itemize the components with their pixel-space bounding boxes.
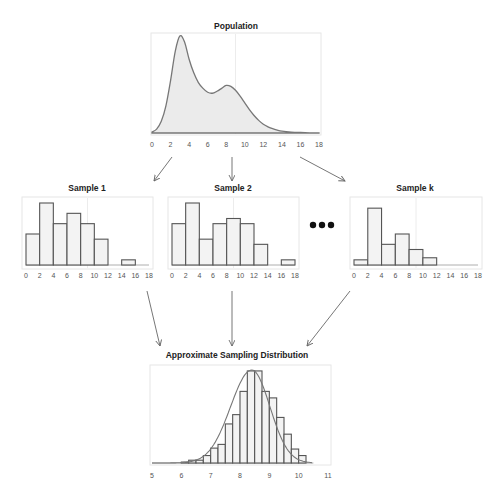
x-tick-label: 14 [447, 272, 455, 279]
x-tick-label: 10 [241, 141, 249, 148]
x-tick-label: 8 [407, 272, 411, 279]
x-tick-label: 4 [197, 272, 201, 279]
histogram-bar [240, 391, 247, 463]
ellipsis-dots-icon [310, 222, 334, 228]
population-panel: Population 024681012141618 [150, 21, 323, 148]
x-tick-label: 10 [90, 272, 98, 279]
histogram-bar [213, 224, 227, 265]
x-tick-label: 5 [150, 472, 154, 479]
x-tick-label: 18 [145, 272, 153, 279]
x-tick-label: 0 [24, 272, 28, 279]
x-tick-label: 16 [277, 272, 285, 279]
x-tick-label: 6 [179, 472, 183, 479]
histogram-bar [255, 371, 262, 463]
x-tick-label: 10 [236, 272, 244, 279]
histogram-bar [225, 424, 232, 463]
histogram-bar [368, 208, 382, 265]
x-tick-label: 6 [65, 272, 69, 279]
x-tick-label: 11 [324, 472, 331, 479]
x-tick-label: 18 [474, 272, 482, 279]
histogram-bar [203, 456, 210, 463]
histogram-bar [186, 203, 200, 265]
sampling-diagram: Population 024681012141618 Sample 1 0246… [0, 0, 502, 501]
x-tick-label: 10 [419, 272, 427, 279]
x-tick-label: 7 [209, 472, 213, 479]
x-tick-label: 12 [250, 272, 258, 279]
x-tick-label: 12 [259, 141, 267, 148]
histogram-bar [382, 244, 396, 265]
histogram-bar [409, 250, 423, 266]
x-tick-label: 2 [38, 272, 42, 279]
histogram-bar [227, 219, 241, 266]
x-tick-label: 0 [352, 272, 356, 279]
x-tick-label: 18 [291, 272, 299, 279]
histogram-bar [26, 234, 40, 265]
x-tick-label: 16 [131, 272, 139, 279]
histogram-bar [240, 224, 254, 265]
x-tick-label: 18 [315, 141, 323, 148]
histogram-bar [53, 224, 67, 265]
x-tick-label: 0 [170, 272, 174, 279]
sample-1-panel: Sample 1 024681012141618 [22, 183, 153, 279]
x-tick-label: 14 [278, 141, 286, 148]
histogram-bar [277, 417, 284, 463]
histogram-bar [247, 371, 254, 463]
sample-k-panel: Sample k 024681012141618 [350, 183, 482, 279]
arrow-to-sample-1 [154, 157, 172, 181]
x-tick-label: 12 [433, 272, 441, 279]
histogram-bar [354, 260, 368, 265]
x-tick-label: 2 [184, 272, 188, 279]
histogram-bar [172, 224, 186, 265]
x-tick-label: 16 [297, 141, 305, 148]
population-x-axis: 024681012141618 [150, 141, 323, 148]
sampling-distribution-title: Approximate Sampling Distribution [166, 350, 309, 360]
x-tick-label: 14 [118, 272, 126, 279]
sample-1-title: Sample 1 [68, 183, 106, 193]
x-tick-label: 8 [224, 141, 228, 148]
histogram-bar [423, 258, 437, 265]
arrow-to-sample-k [300, 157, 345, 181]
sample-2-panel: Sample 2 024681012141618 [168, 183, 299, 279]
histogram-bar [94, 239, 108, 265]
x-tick-label: 8 [225, 272, 229, 279]
sampling-distribution-panel: Approximate Sampling Distribution 567891… [150, 350, 332, 479]
x-tick-label: 2 [366, 272, 370, 279]
histogram-bar [233, 415, 240, 463]
x-tick-label: 0 [150, 141, 154, 148]
x-tick-label: 4 [187, 141, 191, 148]
histogram-bar [395, 234, 409, 265]
histogram-bar [122, 260, 136, 265]
histogram-bar [254, 244, 268, 265]
x-tick-label: 4 [51, 272, 55, 279]
arrow-from-sample-1 [147, 291, 160, 346]
histogram-bar [67, 213, 81, 265]
x-tick-label: 4 [380, 272, 384, 279]
x-tick-label: 6 [211, 272, 215, 279]
histogram-bar [281, 260, 295, 265]
sample-2-title: Sample 2 [214, 183, 252, 193]
sample-k-title: Sample k [396, 183, 434, 193]
x-tick-label: 12 [104, 272, 112, 279]
x-tick-label: 8 [79, 272, 83, 279]
x-tick-label: 6 [393, 272, 397, 279]
x-tick-label: 2 [169, 141, 173, 148]
histogram-bar [211, 448, 218, 463]
population-title: Population [214, 21, 258, 31]
x-tick-label: 14 [264, 272, 272, 279]
arrow-from-sample-k [307, 291, 350, 346]
histogram-bar [218, 444, 225, 463]
x-tick-label: 6 [206, 141, 210, 148]
x-tick-label: 9 [267, 472, 271, 479]
histogram-bar [196, 460, 203, 463]
histogram-bar [199, 239, 213, 265]
histogram-bar [284, 434, 291, 463]
arrows-to-samples [154, 157, 345, 181]
x-tick-label: 10 [295, 472, 303, 479]
histogram-bar [81, 224, 95, 265]
histogram-bar [40, 203, 54, 265]
x-tick-label: 8 [238, 472, 242, 479]
x-tick-label: 16 [460, 272, 468, 279]
arrows-to-sampling-distribution [147, 291, 350, 346]
